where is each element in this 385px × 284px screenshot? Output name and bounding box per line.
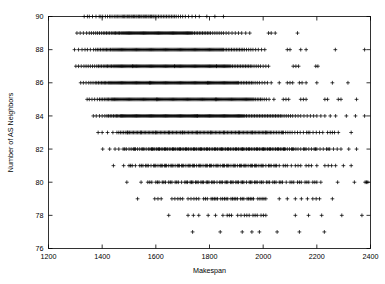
y-tick-label: 84 (36, 112, 44, 121)
y-tick-label: 88 (36, 45, 44, 54)
x-tick-label: 2400 (363, 252, 379, 261)
y-tick-label: 76 (36, 244, 44, 253)
plot-canvas: 1200140016001800200022002400 76788082848… (0, 0, 385, 284)
y-axis-title: Number of AS Neighbors (6, 92, 15, 172)
x-tick-label: 2000 (255, 252, 271, 261)
y-tick-label: 80 (36, 178, 44, 187)
y-tick-label: 86 (36, 78, 44, 87)
x-tick-label: 2200 (309, 252, 325, 261)
x-axis-title: Makespan (193, 266, 226, 275)
x-tick-label: 1600 (148, 252, 164, 261)
y-tick-label: 90 (36, 12, 44, 21)
x-tick-label: 1800 (202, 252, 218, 261)
y-tick-label: 78 (36, 211, 44, 220)
scatter-plot-figure: 1200140016001800200022002400 76788082848… (0, 0, 385, 284)
x-tick-label: 1400 (94, 252, 110, 261)
plot-background (0, 0, 385, 284)
y-tick-label: 82 (36, 145, 44, 154)
